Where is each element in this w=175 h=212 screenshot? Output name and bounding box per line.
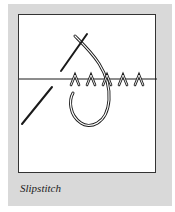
illustration-frame (18, 14, 156, 173)
figure-caption: Slipstitch (20, 182, 61, 194)
figure-plate: Slipstitch (8, 4, 172, 206)
needle-upper (61, 34, 87, 71)
needle-lower (22, 87, 52, 124)
slipstitch-illustration (19, 15, 157, 174)
